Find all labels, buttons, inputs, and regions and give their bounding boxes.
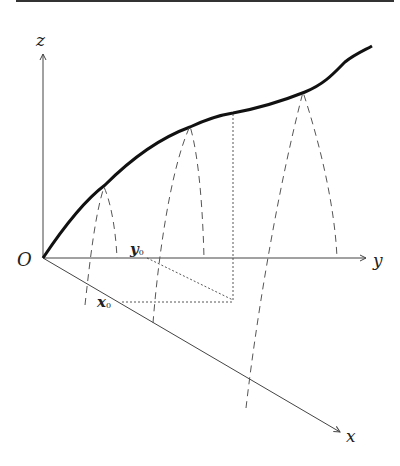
diagram-canvas: z O y x y0 x0 bbox=[0, 0, 400, 466]
x0-label: x0 bbox=[96, 293, 111, 311]
y-axis-label: y bbox=[372, 250, 383, 270]
space-curve bbox=[43, 46, 372, 258]
z-axis-label: z bbox=[35, 30, 46, 50]
origin-label: O bbox=[17, 249, 32, 270]
x0-sub: 0 bbox=[106, 301, 111, 310]
y0-label: y0 bbox=[129, 240, 144, 258]
construction-lines bbox=[122, 114, 233, 302]
x-axis bbox=[43, 258, 340, 432]
x-axis-label: x bbox=[346, 426, 356, 446]
dashed-arcs bbox=[85, 92, 337, 408]
y0-sub: 0 bbox=[139, 248, 144, 257]
